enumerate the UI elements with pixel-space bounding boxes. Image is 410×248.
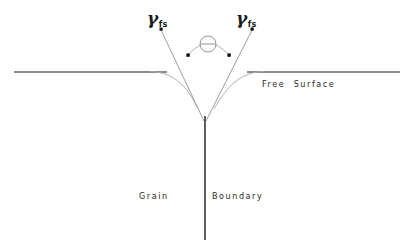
groove-profile-curve-left: [150, 72, 197, 108]
vector-dot-right-base: [227, 53, 230, 56]
gamma-symbol-right: γ: [236, 8, 247, 28]
thermal-groove-figure: γfs γfs Free Surface Grain Boundary: [0, 0, 410, 248]
groove-wall-left: [161, 30, 204, 121]
free-surface-label: Free Surface: [262, 81, 335, 89]
boundary-label: Boundary: [212, 193, 263, 201]
gamma-subscript-left: fs: [159, 20, 168, 29]
grain-label: Grain: [139, 193, 169, 201]
gamma-fs-label-left: γfs: [147, 10, 168, 29]
vector-dot-left-base: [186, 53, 189, 56]
gamma-fs-label-right: γfs: [236, 10, 257, 29]
gamma-symbol-left: γ: [147, 8, 158, 28]
gamma-subscript-right: fs: [248, 20, 257, 29]
diagram-canvas: [0, 0, 410, 248]
